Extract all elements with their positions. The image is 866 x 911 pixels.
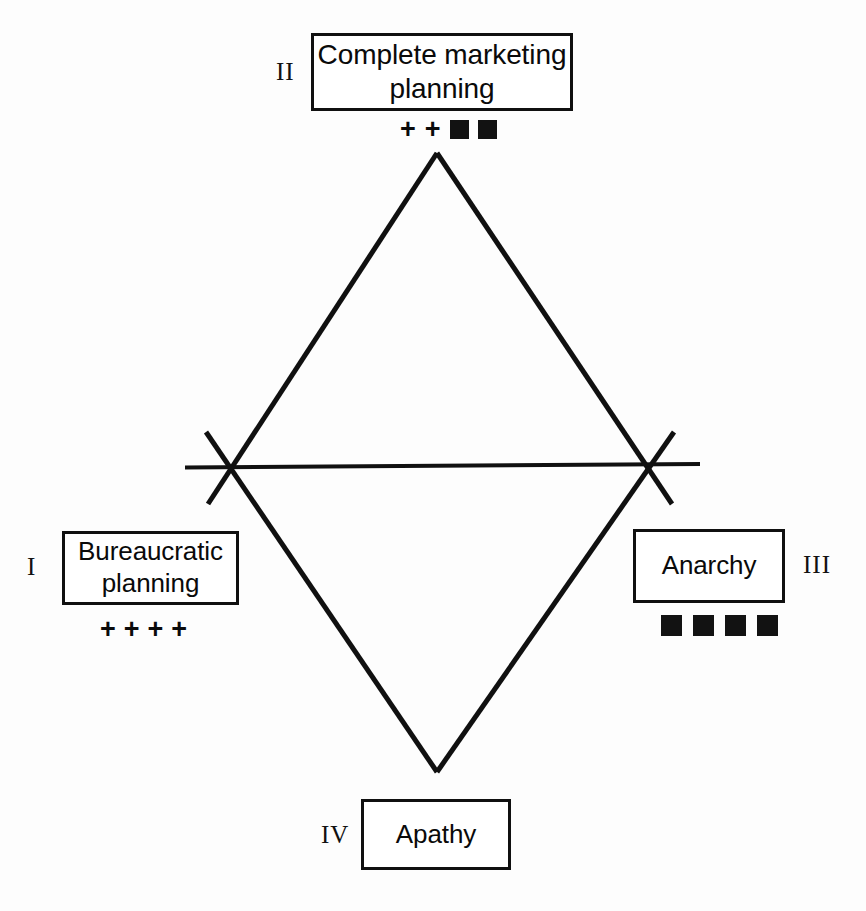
plus-icon: + <box>425 116 441 143</box>
node-box-complete-marketing-planning[interactable]: Complete marketing planning <box>311 33 573 111</box>
filled-square-icon <box>757 615 778 636</box>
plus-icon: + <box>400 116 416 143</box>
quadrant-numeral-iii: III <box>803 551 831 579</box>
plus-icon: + <box>100 616 116 643</box>
node-box-bureaucratic-planning[interactable]: Bureaucratic planning <box>62 531 239 605</box>
filled-square-icon <box>478 120 497 139</box>
filled-square-icon <box>725 615 746 636</box>
symbol-row-right <box>661 615 778 636</box>
node-label-line-1: Complete marketing <box>318 39 567 70</box>
quadrant-numeral-ii: II <box>276 58 295 86</box>
node-label-complete-marketing-planning: Complete marketing planning <box>318 38 567 106</box>
node-label-line-1: Bureaucratic <box>78 536 223 566</box>
diamond-edge-top-right <box>437 153 672 504</box>
node-label-anarchy: Anarchy <box>662 550 757 582</box>
node-label-line-2: planning <box>389 73 494 104</box>
node-label-apathy: Apathy <box>396 819 476 851</box>
quadrant-numeral-iv: IV <box>321 821 349 849</box>
filled-square-icon <box>661 615 682 636</box>
filled-square-icon <box>693 615 714 636</box>
plus-icon: + <box>124 616 140 643</box>
diamond-edge-bottom-left <box>206 432 437 772</box>
node-box-anarchy[interactable]: Anarchy <box>633 529 785 603</box>
horizontal-axis-line <box>185 464 700 468</box>
node-box-apathy[interactable]: Apathy <box>361 799 511 870</box>
node-label-line-2: planning <box>102 568 200 598</box>
quadrant-numeral-i: I <box>27 553 36 581</box>
node-label-bureaucratic-planning: Bureaucratic planning <box>78 536 223 599</box>
diagram-canvas: II Complete marketing planning + + I Bur… <box>0 0 866 911</box>
filled-square-icon <box>450 120 469 139</box>
symbol-row-top: + + <box>400 116 497 143</box>
plus-icon: + <box>171 616 187 643</box>
plus-icon: + <box>148 616 164 643</box>
diamond-edge-top-left <box>208 153 437 504</box>
symbol-row-left: + + + + <box>100 616 187 643</box>
